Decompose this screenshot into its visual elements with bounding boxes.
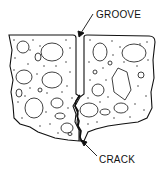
groove-arrowhead bbox=[78, 31, 84, 37]
groove-label: GROOVE bbox=[96, 10, 141, 20]
groove-leader-line bbox=[81, 14, 93, 33]
crack-label: CRACK bbox=[99, 155, 135, 165]
crack-leader-line bbox=[84, 143, 97, 156]
concrete-slab-diagram bbox=[0, 0, 160, 173]
